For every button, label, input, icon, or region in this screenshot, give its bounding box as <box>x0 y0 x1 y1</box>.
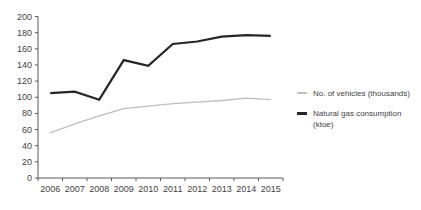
gas-line-swatch-icon <box>297 112 307 115</box>
y-axis-tick-label: 80 <box>22 108 32 118</box>
legend-label-vehicles: No. of vehicles (thousands) <box>313 88 410 99</box>
y-axis-tick-label: 180 <box>17 28 32 38</box>
chart-legend: No. of vehicles (thousands) Natural gas … <box>297 88 417 131</box>
y-axis-tick-label: 100 <box>17 92 32 102</box>
x-axis-tick-label: 2008 <box>89 184 109 194</box>
x-axis-tick-label: 2009 <box>114 184 134 194</box>
x-axis-tick-label: 2012 <box>187 184 207 194</box>
x-axis-tick-label: 2011 <box>163 184 182 194</box>
y-axis-tick-label: 60 <box>22 125 32 135</box>
y-axis-tick-label: 20 <box>22 157 32 167</box>
y-axis-tick-label: 40 <box>22 141 32 151</box>
y-axis-tick-label: 120 <box>17 76 32 86</box>
y-axis-tick-label: 160 <box>17 44 32 54</box>
x-axis-tick-label: 2006 <box>40 184 60 194</box>
vehicles-line-swatch-icon <box>297 92 307 94</box>
y-axis-tick-label: 200 <box>17 12 32 22</box>
series-line-0 <box>50 98 271 133</box>
x-axis-tick-label: 2007 <box>65 184 85 194</box>
legend-item-vehicles: No. of vehicles (thousands) <box>297 88 417 99</box>
x-axis-tick-label: 2013 <box>212 184 232 194</box>
axis-lines <box>38 17 283 179</box>
line-chart: 0204060801001201401601802002006200720082… <box>0 0 421 210</box>
x-axis-tick-label: 2014 <box>236 184 256 194</box>
legend-label-gas: Natural gas consumption (ktoe) <box>313 108 411 130</box>
x-axis-tick-label: 2015 <box>261 184 281 194</box>
series-line-1 <box>50 35 271 100</box>
x-axis-tick-label: 2010 <box>138 184 158 194</box>
y-axis-tick-label: 0 <box>27 173 32 183</box>
y-axis-tick-label: 140 <box>17 60 32 70</box>
legend-item-gas: Natural gas consumption (ktoe) <box>297 108 417 130</box>
